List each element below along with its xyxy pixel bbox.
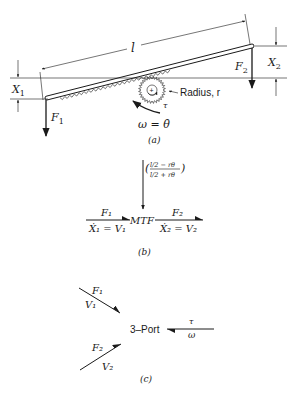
bond-2-flow: V₂: [102, 361, 113, 372]
modulus-numerator: l/2 − rθ: [150, 161, 175, 169]
f2-label: F2: [234, 60, 248, 75]
radius-label: Radius, r: [180, 87, 221, 98]
caption-a: (a): [148, 135, 161, 145]
bond-2-effort: F₂: [91, 342, 103, 353]
bond-3-flow: ω: [188, 330, 196, 340]
mechanical-transformer-figure: l X1 X2 F1 F2 + Radius, r τ ω = θ̇ (a): [0, 0, 297, 396]
bond-3-effort: τ: [189, 317, 194, 326]
bond-left-flow: Ẋ₁ = V₁: [88, 223, 126, 234]
part-a-lever-diagram: l X1 X2 F1 F2 + Radius, r τ ω = θ̇ (a): [10, 14, 287, 145]
positive-direction-sign: +: [150, 87, 154, 94]
caption-b: (b): [138, 247, 151, 257]
torque-label: τ: [163, 101, 168, 110]
pinion-gear: +: [139, 77, 166, 104]
x2-label: X2: [267, 56, 281, 71]
bond-right-effort: F₂: [171, 207, 183, 218]
bond-right-flow: Ẋ₂ = V₂: [159, 223, 197, 234]
dimension-extension-left: [40, 72, 43, 100]
dimension-extension-right: [245, 14, 250, 44]
f1-label: F1: [50, 111, 64, 126]
part-b-bond-graph: ( l/2 − rθ l/2 + rθ ) F₁ Ẋ₁ = V₁ MTF F₂ …: [86, 160, 203, 257]
length-label: l: [131, 41, 135, 55]
three-port-element: 3–Port: [130, 324, 160, 335]
part-c-three-port: F₁ V₁ F₂ V₂ 3–Port τ ω (c): [79, 285, 214, 384]
length-dimension-right: [141, 21, 245, 45]
length-dimension-left: [42, 49, 127, 69]
mtf-element: MTF: [129, 215, 155, 226]
modulus-denominator: l/2 + rθ: [150, 171, 175, 179]
radius-pointer-arrow: [169, 91, 178, 93]
x1-label: X1: [11, 83, 25, 98]
bond-1-flow: V₁: [85, 299, 96, 310]
modulus-close-paren: ): [180, 162, 185, 175]
bond-1-effort: F₁: [91, 285, 103, 296]
omega-label: ω = θ̇: [138, 118, 170, 131]
angular-velocity-arrow: [133, 101, 160, 113]
bond-left-effort: F₁: [100, 207, 112, 218]
caption-c: (c): [140, 374, 153, 384]
